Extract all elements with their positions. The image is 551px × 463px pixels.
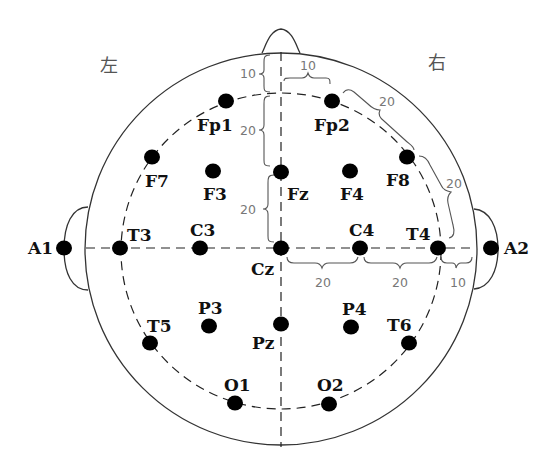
distance-label: 20 xyxy=(379,94,395,109)
electrode-dot[interactable] xyxy=(201,319,217,334)
distance-label: 20 xyxy=(446,176,462,191)
electrode-label: Fp1 xyxy=(197,115,233,135)
electrode-f7[interactable]: F7 xyxy=(144,150,169,192)
electrode-label: Fz xyxy=(287,184,309,204)
electrode-fp1[interactable]: Fp1 xyxy=(197,94,234,136)
electrode-fz[interactable]: Fz xyxy=(273,165,309,205)
electrode-label: Fp2 xyxy=(314,115,350,135)
electrode-dot[interactable] xyxy=(112,241,128,256)
electrode-dot[interactable] xyxy=(401,336,417,351)
electrode-label: C4 xyxy=(349,220,375,240)
electrode-dot[interactable] xyxy=(399,150,415,165)
electrode-dot[interactable] xyxy=(227,396,243,411)
electrode-label: P3 xyxy=(198,298,223,318)
electrode-dot[interactable] xyxy=(342,164,358,179)
electrode-t5[interactable]: T5 xyxy=(142,316,171,351)
electrode-label: T5 xyxy=(147,316,171,336)
electrode-dot[interactable] xyxy=(343,320,359,335)
electrode-label: A2 xyxy=(503,238,529,258)
right-side-label: 右 xyxy=(428,52,446,73)
electrode-label: A1 xyxy=(27,238,53,258)
electrode-f8[interactable]: F8 xyxy=(386,150,415,191)
electrode-label: F7 xyxy=(145,171,169,191)
electrode-p4[interactable]: P4 xyxy=(342,299,367,335)
left-side-label: 左 xyxy=(100,55,118,76)
electrode-dot[interactable] xyxy=(430,241,446,256)
electrode-label: F3 xyxy=(203,184,227,204)
electrode-label: C3 xyxy=(190,220,215,240)
distance-label: 20 xyxy=(240,123,256,138)
electrode-dot[interactable] xyxy=(324,94,340,109)
electrode-fp2[interactable]: Fp2 xyxy=(314,94,350,136)
electrode-p3[interactable]: P3 xyxy=(198,298,223,334)
electrode-f3[interactable]: F3 xyxy=(203,164,227,205)
electrode-label: Cz xyxy=(251,259,275,279)
electrode-dot[interactable] xyxy=(205,164,221,179)
electrode-label: T4 xyxy=(406,224,431,244)
distance-label: 10 xyxy=(450,275,466,290)
electrode-dot[interactable] xyxy=(483,241,499,256)
electrode-dot[interactable] xyxy=(144,150,160,165)
electrode-pz[interactable]: Pz xyxy=(252,317,289,354)
electrode-t3[interactable]: T3 xyxy=(112,225,151,256)
electrode-t6[interactable]: T6 xyxy=(387,315,417,351)
distance-label: 10 xyxy=(300,58,316,73)
electrode-label: P4 xyxy=(342,299,367,319)
electrode-o1[interactable]: O1 xyxy=(224,375,251,411)
electrode-label: F8 xyxy=(386,170,410,190)
electrode-dot[interactable] xyxy=(218,94,234,109)
electrode-dot[interactable] xyxy=(273,241,289,256)
eeg-10-20-diagram: 左 右 10 20 20 10 20 20 2 xyxy=(0,0,551,463)
electrode-dot[interactable] xyxy=(352,241,368,256)
electrode-label: F4 xyxy=(340,184,364,204)
electrode-cz[interactable]: Cz xyxy=(251,241,289,280)
nose-shape xyxy=(262,29,300,53)
electrode-o2[interactable]: O2 xyxy=(317,375,344,412)
electrode-f4[interactable]: F4 xyxy=(340,164,364,205)
electrode-c4[interactable]: C4 xyxy=(349,220,375,256)
electrode-dot[interactable] xyxy=(56,241,72,256)
distance-label: 20 xyxy=(240,202,256,217)
distance-label: 20 xyxy=(315,275,331,290)
electrode-dot[interactable] xyxy=(142,336,158,351)
electrode-dot[interactable] xyxy=(273,165,289,180)
electrode-label: T6 xyxy=(387,315,411,335)
electrode-a2[interactable]: A2 xyxy=(483,238,529,258)
electrode-label: O2 xyxy=(317,375,344,395)
distance-label: 20 xyxy=(392,275,408,290)
electrodes: Fp1 Fp2 F7 F3 Fz F4 F8 A1 xyxy=(27,94,529,412)
electrode-c3[interactable]: C3 xyxy=(190,220,215,256)
electrode-label: T3 xyxy=(127,225,151,245)
electrode-dot[interactable] xyxy=(192,241,208,256)
electrode-label: Pz xyxy=(252,333,275,353)
electrode-a1[interactable]: A1 xyxy=(27,238,72,258)
electrode-dot[interactable] xyxy=(273,317,289,332)
electrode-label: O1 xyxy=(224,375,251,395)
electrode-dot[interactable] xyxy=(321,397,337,412)
distance-label: 10 xyxy=(240,66,256,81)
